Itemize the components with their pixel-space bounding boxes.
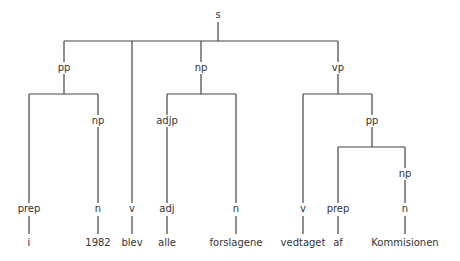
tree-edges: [0, 0, 460, 261]
node-v: v: [128, 203, 136, 215]
word-leaf: af: [332, 237, 344, 249]
node-adj: adj: [158, 203, 175, 215]
word-leaf: 1982: [84, 237, 111, 249]
node-np: np: [194, 62, 209, 74]
word-leaf: vedtaget: [280, 237, 327, 249]
node-prep: prep: [17, 203, 42, 215]
node-np: np: [91, 115, 106, 127]
word-leaf: forslagene: [209, 237, 264, 249]
node-n: n: [401, 203, 409, 215]
node-pp: pp: [365, 115, 380, 127]
node-np: np: [398, 168, 413, 180]
node-prep: prep: [326, 203, 351, 215]
node-n: n: [94, 203, 102, 215]
node-pp: pp: [57, 62, 72, 74]
node-n: n: [232, 203, 240, 215]
node-s: s: [214, 9, 221, 21]
word-leaf: alle: [157, 237, 177, 249]
word-leaf: Kommisionen: [370, 237, 439, 249]
word-leaf: i: [27, 237, 32, 249]
word-leaf: blev: [120, 237, 143, 249]
node-adjp: adjp: [155, 115, 179, 127]
node-vp: vp: [331, 62, 345, 74]
node-v: v: [299, 203, 307, 215]
